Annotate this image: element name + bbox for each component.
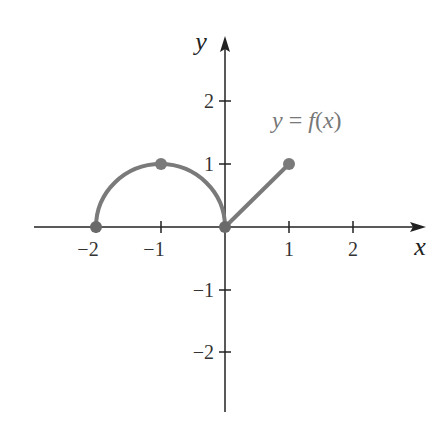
y-tick-label: 2 xyxy=(204,90,214,112)
point-marker xyxy=(219,221,231,233)
x-tick-label: 1 xyxy=(284,238,294,260)
y-tick-label: −1 xyxy=(193,279,214,301)
point-marker xyxy=(283,158,295,170)
x-tick-label: −1 xyxy=(143,238,164,260)
y-tick-label: −2 xyxy=(193,341,214,363)
y-axis-label: y xyxy=(192,27,207,56)
x-axis-label: x xyxy=(413,232,426,261)
point-marker xyxy=(90,221,102,233)
line-segment xyxy=(225,164,289,227)
point-marker xyxy=(155,158,167,170)
x-tick-label: 2 xyxy=(348,238,358,260)
x-tick-label: −2 xyxy=(77,238,98,260)
function-graph: −2 −1 1 2 2 1 −1 −2 y x y = f(x) xyxy=(0,0,447,428)
y-tick-label: 1 xyxy=(204,153,214,175)
function-label: y = f(x) xyxy=(270,107,342,133)
